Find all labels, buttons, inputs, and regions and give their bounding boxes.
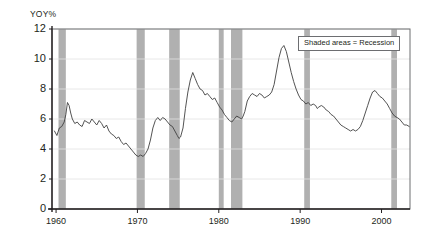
x-tick-label-1990: 1990	[290, 217, 310, 226]
x-tick-label-1980: 1980	[209, 217, 229, 226]
x-tick-label-1960: 1960	[46, 217, 66, 226]
legend-recession: Shaded areas = Recession	[298, 36, 400, 51]
chart-container: YOY% 024681012 19601970198019902000 Shad…	[0, 0, 429, 245]
x-tick-label-2000: 2000	[372, 217, 392, 226]
x-tick-label-1970: 1970	[127, 217, 147, 226]
